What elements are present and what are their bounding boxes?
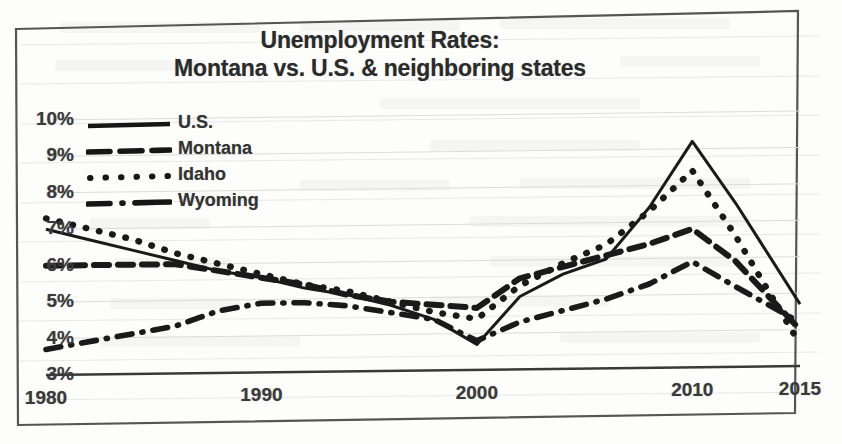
y-tick-label-10pct: 10% (22, 108, 74, 130)
y-tick-label-9pct: 9% (22, 144, 74, 166)
x-tick-label-1990: 1990 (221, 384, 301, 406)
series-line-wyoming (46, 262, 800, 350)
gridline-5 (46, 293, 800, 302)
legend-swatch-dashed (86, 142, 172, 160)
chart-title: Unemployment Rates: Montana vs. U.S. & n… (110, 26, 650, 82)
legend-item-us[interactable]: U.S. (86, 112, 296, 138)
chart-title-line-1: Unemployment Rates: (110, 26, 650, 54)
x-tick-label-2000: 2000 (437, 382, 517, 404)
x-axis-line (46, 366, 800, 375)
y-tick-label-8pct: 8% (22, 181, 74, 203)
chart-title-line-2: Montana vs. U.S. & neighboring states (110, 54, 650, 82)
chart-legend: U.S. Montana Idaho Wyoming (86, 112, 296, 216)
legend-item-montana[interactable]: Montana (86, 138, 296, 164)
legend-label-wyoming: Wyoming (178, 190, 259, 211)
legend-item-idaho[interactable]: Idaho (86, 164, 296, 190)
legend-swatch-solid (86, 116, 172, 134)
legend-swatch-dashdot (86, 194, 172, 212)
legend-label-montana: Montana (178, 138, 252, 159)
legend-label-us: U.S. (178, 112, 213, 133)
y-tick-label-4pct: 4% (22, 327, 74, 349)
x-tick-label-1980: 1980 (6, 387, 86, 409)
y-tick-label-7pct: 7% (22, 217, 74, 239)
x-tick-label-2015: 2015 (760, 378, 840, 400)
y-tick-label-6pct: 6% (22, 254, 74, 276)
y-tick-label-5pct: 5% (22, 290, 74, 312)
y-tick-label-3pct: 3% (22, 363, 74, 385)
legend-label-idaho: Idaho (178, 164, 226, 185)
legend-item-wyoming[interactable]: Wyoming (86, 190, 296, 216)
legend-swatch-dotted (86, 168, 172, 186)
x-tick-label-2010: 2010 (652, 379, 732, 401)
